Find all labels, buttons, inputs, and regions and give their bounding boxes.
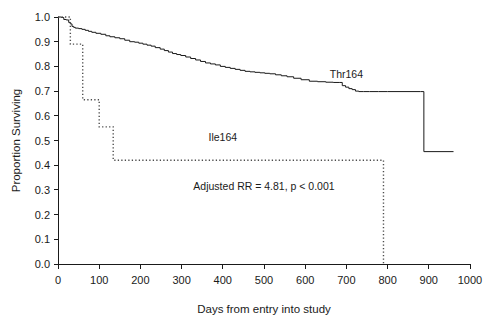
axes: 0.00.10.20.30.40.50.60.70.80.91.00100200… — [35, 11, 483, 286]
x-tick-label: 200 — [131, 274, 149, 286]
y-tick-label: 0.4 — [35, 159, 50, 171]
chart-figure: 0.00.10.20.30.40.50.60.70.80.91.00100200… — [0, 0, 495, 328]
curve-labels: Thr164Ile164 — [208, 68, 363, 143]
y-tick-label: 1.0 — [35, 11, 50, 23]
survival-curve-thr164 — [58, 17, 454, 152]
y-tick-label: 0.6 — [35, 110, 50, 122]
x-tick-label: 0 — [55, 274, 61, 286]
kaplan-meier-plot: 0.00.10.20.30.40.50.60.70.80.91.00100200… — [0, 0, 495, 328]
curve-label-thr164: Thr164 — [330, 68, 363, 80]
curve-label-ile164: Ile164 — [208, 131, 237, 143]
y-tick-label: 0.2 — [35, 209, 50, 221]
y-tick-label: 0.7 — [35, 85, 50, 97]
x-tick-label: 900 — [420, 274, 438, 286]
y-tick-label: 0.0 — [35, 258, 50, 270]
y-tick-label: 0.1 — [35, 233, 50, 245]
x-tick-label: 800 — [378, 274, 396, 286]
x-tick-label: 600 — [296, 274, 314, 286]
x-tick-label: 400 — [214, 274, 232, 286]
x-axis-title: Days from entry into study — [197, 303, 331, 315]
y-tick-label: 0.8 — [35, 60, 50, 72]
adjusted-rr-annotation: Adjusted RR = 4.81, p < 0.001 — [193, 180, 334, 192]
survival-curves — [58, 17, 454, 264]
y-tick-label: 0.5 — [35, 135, 50, 147]
y-axis-title: Proportion Surviving — [10, 89, 22, 193]
x-tick-label: 700 — [337, 274, 355, 286]
x-tick-label: 300 — [172, 274, 190, 286]
y-tick-label: 0.3 — [35, 184, 50, 196]
y-tick-label: 0.9 — [35, 36, 50, 48]
x-tick-label: 500 — [255, 274, 273, 286]
x-tick-label: 1000 — [458, 274, 482, 286]
annotations: Adjusted RR = 4.81, p < 0.001 — [193, 180, 334, 192]
x-tick-label: 100 — [90, 274, 108, 286]
